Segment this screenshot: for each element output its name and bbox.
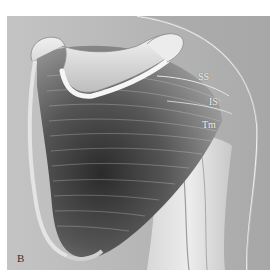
label-infraspinatus: IS	[209, 96, 218, 107]
panel-label: B	[17, 252, 24, 264]
label-supraspinatus: SS	[198, 71, 209, 82]
label-teres-minor: Tm	[202, 119, 216, 130]
shoulder-illustration	[7, 16, 270, 270]
anatomy-figure: SS IS Tm B	[7, 16, 270, 270]
